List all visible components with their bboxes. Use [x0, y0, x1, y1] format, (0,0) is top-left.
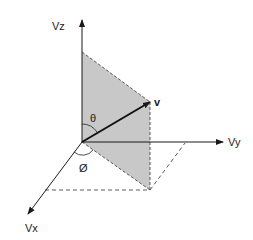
phi-label: Ø [79, 162, 88, 174]
projection-y-line [150, 143, 185, 190]
y-axis-label: Vy [228, 136, 241, 148]
vector-label: v [154, 96, 161, 108]
phi-arc [74, 150, 93, 155]
vector-diagram: Vz Vy Vx v θ Ø [0, 0, 253, 240]
x-axis [28, 142, 82, 214]
theta-label: θ [90, 112, 96, 124]
x-axis-label: Vx [25, 222, 38, 234]
z-axis-label: Vz [52, 20, 65, 32]
